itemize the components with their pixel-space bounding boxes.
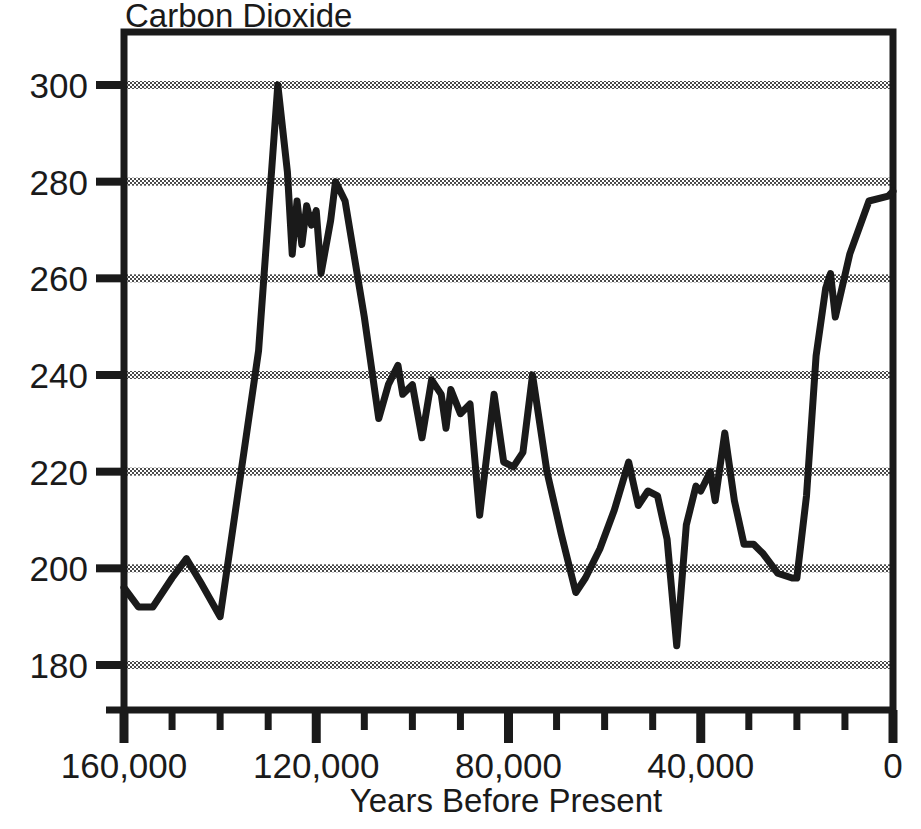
y-tick-label: 300	[30, 66, 88, 105]
gridline	[127, 178, 890, 186]
chart-canvas: 300280260240220200180 160,000120,00080,0…	[0, 0, 921, 829]
x-tick-label: 120,000	[253, 746, 380, 785]
x-tick-label: 40,000	[647, 746, 754, 785]
y-tick-label: 180	[30, 646, 88, 685]
x-axis-title: Years Before Present	[350, 782, 662, 819]
gridline	[127, 371, 890, 379]
y-tick-label: 280	[30, 163, 88, 202]
y-tick-label: 220	[30, 453, 88, 492]
carbon-dioxide-chart: 300280260240220200180 160,000120,00080,0…	[0, 0, 921, 829]
y-tick-label: 240	[30, 356, 88, 395]
x-tick-label: 0	[883, 746, 902, 785]
x-tick-label: 160,000	[61, 746, 188, 785]
gridline	[127, 661, 890, 669]
x-tick-label: 80,000	[455, 746, 562, 785]
chart-title: Carbon Dioxide	[125, 0, 352, 34]
y-tick-label: 260	[30, 259, 88, 298]
y-tick-label: 200	[30, 549, 88, 588]
gridline	[127, 274, 890, 282]
gridline	[127, 81, 890, 89]
